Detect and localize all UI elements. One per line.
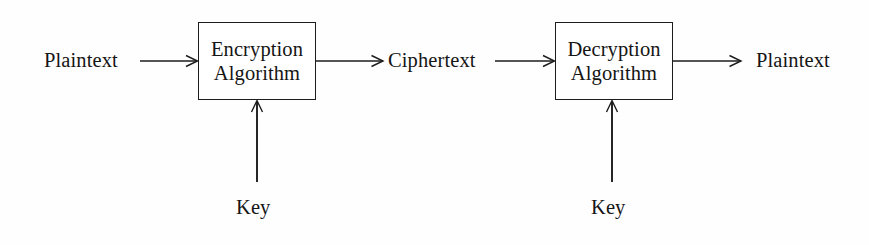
input-plaintext-label: Plaintext (44, 49, 118, 72)
arrow-key-left-to-encryption (252, 101, 263, 183)
arrow-decryption-to-plaintext (673, 56, 741, 67)
encryption-box-line-1: Encryption (211, 37, 303, 61)
arrow-encryption-to-ciphertext (316, 56, 383, 67)
arrow-ciphertext-to-decryption (495, 56, 555, 67)
encryption-box-line-2: Algorithm (214, 61, 300, 85)
output-plaintext-label: Plaintext (756, 49, 830, 72)
key-left-label: Key (236, 196, 270, 219)
diagram-connectors-layer (0, 0, 869, 245)
ciphertext-label: Ciphertext (388, 49, 476, 72)
key-right-label: Key (591, 196, 625, 219)
arrow-key-right-to-decryption (607, 101, 618, 183)
decryption-box-line-2: Algorithm (571, 61, 657, 85)
decryption-algorithm-box: Decryption Algorithm (555, 22, 673, 100)
encryption-algorithm-box: Encryption Algorithm (198, 22, 316, 100)
decryption-box-line-1: Decryption (567, 37, 660, 61)
encryption-model-diagram: Encryption Algorithm Decryption Algorith… (0, 0, 869, 245)
arrow-plaintext-to-encryption (140, 56, 198, 67)
